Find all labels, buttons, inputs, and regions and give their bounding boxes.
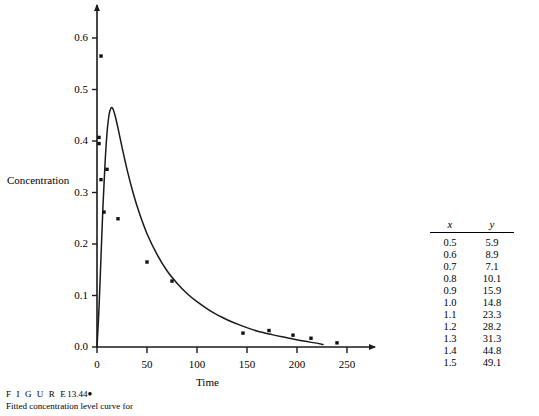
x-tick-label: 50 bbox=[127, 359, 167, 370]
figure-13-45: x y 0.55.90.68.90.77.10.810.10.915.91.01… bbox=[430, 218, 530, 368]
data-table: x y 0.55.90.68.90.77.10.810.10.915.91.01… bbox=[430, 218, 514, 368]
data-point bbox=[102, 210, 105, 213]
scatter-plot: 0.00.10.20.30.40.50.6050100150200250 bbox=[0, 0, 400, 380]
x-tick-label: 100 bbox=[177, 359, 217, 370]
y-tick-label: 0.5 bbox=[54, 84, 88, 95]
column-header-x: x bbox=[430, 218, 470, 233]
column-header-y: y bbox=[470, 218, 514, 233]
cell-y: 28.2 bbox=[470, 320, 514, 332]
data-point bbox=[97, 136, 100, 139]
x-tick-label: 200 bbox=[277, 359, 317, 370]
figure-13-44: 0.00.10.20.30.40.50.6050100150200250 Con… bbox=[0, 0, 400, 416]
table-row: 1.331.3 bbox=[430, 332, 514, 344]
table-row: 0.77.1 bbox=[430, 260, 514, 272]
cell-y: 31.3 bbox=[470, 332, 514, 344]
cell-x: 0.5 bbox=[430, 233, 470, 249]
cell-y: 14.8 bbox=[470, 296, 514, 308]
data-point bbox=[291, 333, 294, 336]
x-tick-label: 250 bbox=[327, 359, 367, 370]
page-root: 0.00.10.20.30.40.50.6050100150200250 Con… bbox=[0, 0, 539, 416]
y-tick-label: 0.0 bbox=[54, 341, 88, 352]
figure-label-word: F I G U R E bbox=[6, 389, 67, 399]
data-point bbox=[170, 279, 173, 282]
y-tick-label: 0.4 bbox=[54, 135, 88, 146]
table-row: 0.55.9 bbox=[430, 233, 514, 249]
table-header-row: x y bbox=[430, 218, 514, 233]
cell-x: 1.1 bbox=[430, 308, 470, 320]
table-row: 0.915.9 bbox=[430, 284, 514, 296]
cell-y: 5.9 bbox=[470, 233, 514, 249]
table-row: 0.68.9 bbox=[430, 248, 514, 260]
cell-y: 44.8 bbox=[470, 344, 514, 356]
cell-x: 0.6 bbox=[430, 248, 470, 260]
figure-label-number: 13.44 bbox=[67, 389, 87, 399]
figure-13-44-caption: F I G U R E13.44● bbox=[6, 388, 92, 400]
cell-x: 1.3 bbox=[430, 332, 470, 344]
data-point bbox=[335, 341, 338, 344]
table-row: 1.444.8 bbox=[430, 344, 514, 356]
axes bbox=[97, 5, 375, 347]
x-axis-title: Time bbox=[196, 376, 219, 388]
y-tick-label: 0.3 bbox=[54, 187, 88, 198]
data-point bbox=[309, 337, 312, 340]
data-point bbox=[99, 178, 102, 181]
cell-y: 8.9 bbox=[470, 248, 514, 260]
cell-x: 1.5 bbox=[430, 356, 470, 368]
table-row: 1.014.8 bbox=[430, 296, 514, 308]
table-body: 0.55.90.68.90.77.10.810.10.915.91.014.81… bbox=[430, 233, 514, 369]
x-axis-ticks bbox=[97, 347, 347, 353]
cell-x: 0.8 bbox=[430, 272, 470, 284]
cell-y: 15.9 bbox=[470, 284, 514, 296]
fitted-curve bbox=[97, 108, 323, 347]
cell-y: 23.3 bbox=[470, 308, 514, 320]
cell-y: 49.1 bbox=[470, 356, 514, 368]
table-row: 1.228.2 bbox=[430, 320, 514, 332]
data-point bbox=[241, 331, 244, 334]
y-tick-label: 0.6 bbox=[54, 32, 88, 43]
cell-x: 1.4 bbox=[430, 344, 470, 356]
data-point bbox=[97, 142, 100, 145]
table-head: x y bbox=[430, 218, 514, 233]
figure-bullet-icon: ● bbox=[88, 389, 93, 398]
y-tick-label: 0.1 bbox=[54, 290, 88, 301]
table-row: 0.810.1 bbox=[430, 272, 514, 284]
y-tick-label: 0.2 bbox=[54, 238, 88, 249]
data-point bbox=[116, 217, 119, 220]
cell-x: 0.7 bbox=[430, 260, 470, 272]
data-point bbox=[145, 260, 148, 263]
cell-y: 10.1 bbox=[470, 272, 514, 284]
table-row: 1.123.3 bbox=[430, 308, 514, 320]
data-point bbox=[267, 329, 270, 332]
data-points bbox=[97, 54, 338, 344]
data-point bbox=[99, 54, 102, 57]
cell-y: 7.1 bbox=[470, 260, 514, 272]
x-tick-label: 150 bbox=[227, 359, 267, 370]
cell-x: 1.2 bbox=[430, 320, 470, 332]
cell-x: 0.9 bbox=[430, 284, 470, 296]
table-row: 1.549.1 bbox=[430, 356, 514, 368]
y-axis-title: Concentration bbox=[7, 174, 69, 186]
figure-13-44-subtitle: Fitted concentration level curve for bbox=[6, 401, 133, 412]
x-tick-label: 0 bbox=[77, 359, 117, 370]
data-point bbox=[105, 168, 108, 171]
cell-x: 1.0 bbox=[430, 296, 470, 308]
